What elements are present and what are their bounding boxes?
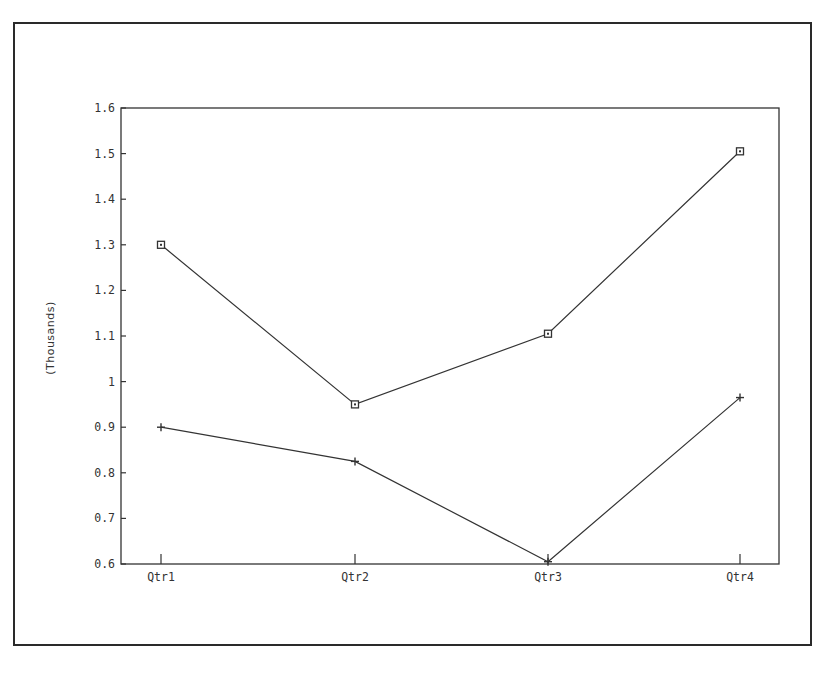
y-tick-label: 1 — [108, 375, 115, 389]
y-tick-label: 1.6 — [94, 101, 115, 115]
y-tick-label: 0.8 — [94, 466, 115, 480]
square-marker-dot — [160, 244, 162, 246]
x-tick-label: Qtr3 — [534, 570, 562, 584]
y-tick-label: 0.6 — [94, 557, 115, 571]
y-axis-label: (Thousands) — [44, 301, 57, 375]
series-line — [161, 151, 740, 404]
square-marker-dot — [547, 333, 549, 335]
x-tick-label: Qtr4 — [726, 570, 754, 584]
plus-marker-icon — [351, 457, 359, 465]
data-series — [157, 148, 744, 566]
y-tick-label: 1.5 — [94, 147, 115, 161]
square-marker-dot — [354, 403, 356, 405]
y-tick-label: 0.9 — [94, 420, 115, 434]
y-tick-label: 1.3 — [94, 238, 115, 252]
square-marker-dot — [739, 150, 741, 152]
y-tick-label: 0.7 — [94, 511, 115, 525]
plot-area-border — [121, 108, 779, 564]
y-tick-label: 1.1 — [94, 329, 115, 343]
series-line — [161, 398, 740, 562]
y-tick-label: 1.4 — [94, 192, 115, 206]
plus-marker-icon — [157, 423, 165, 431]
x-axis-ticks: Qtr1Qtr2Qtr3Qtr4 — [147, 554, 754, 584]
y-tick-label: 1.2 — [94, 283, 115, 297]
x-tick-label: Qtr2 — [341, 570, 369, 584]
series-2 — [157, 394, 744, 566]
plot-axes — [121, 108, 779, 564]
series-1 — [158, 148, 744, 408]
x-tick-label: Qtr1 — [147, 570, 175, 584]
line-chart: 0.60.70.80.911.11.21.31.41.51.6 Qtr1Qtr2… — [0, 0, 826, 684]
